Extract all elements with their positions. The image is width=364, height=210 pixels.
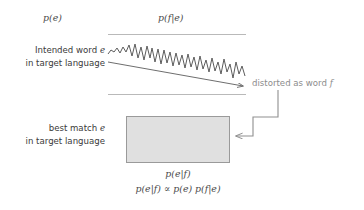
noisy-signal-waveform	[108, 44, 245, 78]
bayes-rule-label: p(e|f) ∝ p(e) p(f|e)	[106, 181, 250, 196]
formula-group: p(e|f) p(e|f) ∝ p(e) p(f|e)	[106, 166, 250, 196]
elbow-connector	[236, 90, 278, 136]
diagram-canvas: p(e) p(f|e) Intended word e in target la…	[0, 0, 364, 210]
posterior-label: p(e|f)	[106, 166, 250, 181]
